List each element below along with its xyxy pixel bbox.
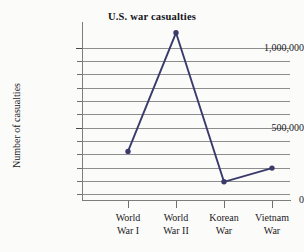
data-point: [173, 30, 178, 35]
series-line: [128, 33, 272, 182]
data-point: [269, 165, 274, 170]
data-series: [0, 0, 304, 252]
data-point: [125, 149, 130, 154]
chart-screenshot: U.S. war casualties Number of casualties…: [0, 0, 304, 252]
data-point: [221, 179, 226, 184]
